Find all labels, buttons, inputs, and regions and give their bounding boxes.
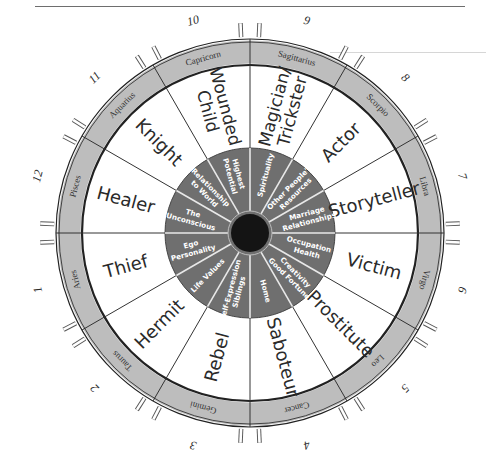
house-number-11: 11 (86, 69, 104, 87)
house-number-6: 6 (455, 285, 470, 294)
house-number-2: 2 (87, 381, 101, 395)
house-number-7: 7 (455, 171, 470, 181)
house-number-12: 12 (29, 168, 46, 183)
house-number-8: 8 (398, 70, 412, 84)
house-number-5: 5 (398, 381, 412, 395)
house-number-9: 9 (302, 13, 311, 28)
house-number-4: 4 (302, 438, 311, 453)
house-number-1: 1 (30, 285, 45, 294)
archetype-wheel: AriesTaurusGeminiCancerLeoVirgoLibraScor… (0, 0, 486, 469)
house-number-10: 10 (185, 12, 200, 29)
house-number-3: 3 (188, 438, 198, 453)
center-hub (231, 214, 269, 252)
